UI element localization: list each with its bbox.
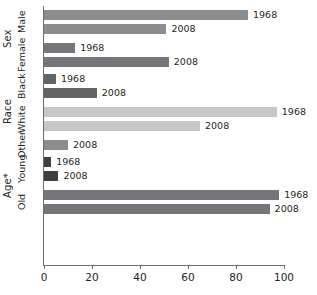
x-tick-label-40: 40 [133, 271, 146, 283]
category-label-black: Black [14, 73, 29, 99]
bar-female-2008 [44, 57, 169, 67]
bar-label-female-1968: 1968 [80, 43, 104, 53]
x-tick-mark-60 [188, 265, 189, 269]
group-label-race: Race [0, 74, 14, 150]
bar-black-2008 [44, 88, 97, 98]
x-tick-label-100: 100 [274, 271, 294, 283]
x-tick-label-20: 20 [85, 271, 98, 283]
bar-label-young-2008: 2008 [63, 171, 87, 181]
x-tick-mark-40 [140, 265, 141, 269]
bar-chart: SexRaceAge* MaleFemaleBlackWhiteOtherYou… [0, 0, 317, 295]
bar-old-2008 [44, 204, 270, 214]
x-tick-label-80: 80 [229, 271, 242, 283]
bar-label-black-1968: 1968 [61, 74, 85, 84]
bar-label-male-2008: 2008 [171, 24, 195, 34]
bar-young-2008 [44, 171, 58, 181]
group-label-sex: Sex [0, 10, 14, 67]
bar-label-young-1968: 1968 [56, 157, 80, 167]
bar-label-old-1968: 1968 [284, 190, 308, 200]
bar-female-1968 [44, 43, 75, 53]
category-label-white: White [14, 106, 29, 132]
category-label-old: Old [14, 189, 29, 215]
plot-area: 1968200819682008196820081968200820081968… [44, 6, 284, 265]
bar-label-female-2008: 2008 [174, 57, 198, 67]
bar-black-1968 [44, 74, 56, 84]
category-label-young: Young [14, 156, 29, 182]
bar-white-1968 [44, 107, 277, 117]
bar-other-2008 [44, 140, 68, 150]
category-label-other: Other [14, 139, 29, 151]
bar-label-white-1968: 1968 [282, 107, 306, 117]
bar-white-2008 [44, 121, 200, 131]
bar-old-1968 [44, 190, 279, 200]
bar-label-other-2008: 2008 [73, 140, 97, 150]
bar-label-black-2008: 2008 [102, 88, 126, 98]
bar-young-1968 [44, 157, 51, 167]
x-tick-mark-100 [284, 265, 285, 269]
bar-male-2008 [44, 24, 166, 34]
x-tick-mark-80 [236, 265, 237, 269]
x-tick-mark-20 [92, 265, 93, 269]
category-label-female: Female [14, 42, 29, 68]
x-tick-label-60: 60 [181, 271, 194, 283]
x-tick-mark-0 [44, 265, 45, 269]
x-tick-label-0: 0 [41, 271, 48, 283]
group-label-age: Age* [0, 157, 14, 214]
bar-label-white-2008: 2008 [205, 121, 229, 131]
category-label-male: Male [14, 9, 29, 35]
x-axis-line [43, 265, 284, 266]
bar-label-male-1968: 1968 [253, 10, 277, 20]
bar-label-old-2008: 2008 [275, 204, 299, 214]
bar-male-1968 [44, 10, 248, 20]
